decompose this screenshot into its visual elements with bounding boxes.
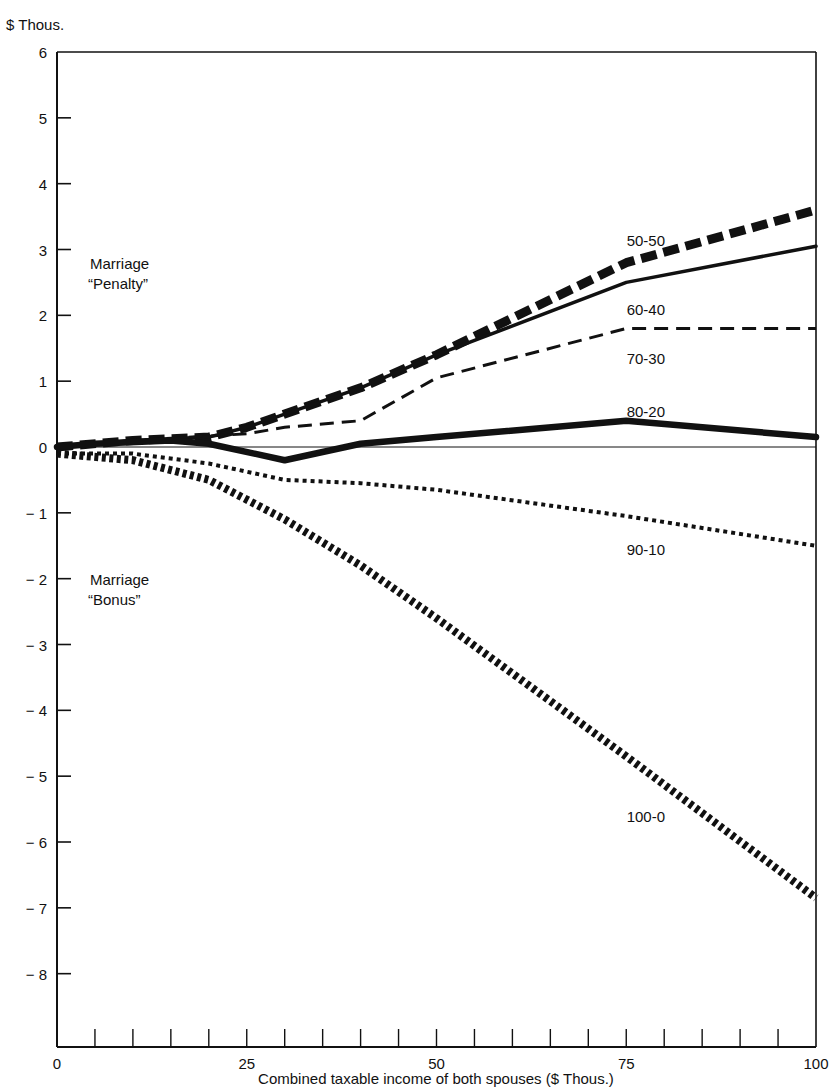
series-label-70-30: 70-30: [627, 350, 665, 367]
series-line-100-0: [57, 454, 816, 898]
series-label-80-20: 80-20: [627, 403, 665, 420]
series-label-60-40: 60-40: [627, 301, 665, 318]
y-axis-title: $ Thous.: [6, 16, 64, 33]
series-line-80-20: [57, 421, 816, 461]
y-tick-label: 1: [39, 373, 47, 390]
x-axis-title: Combined taxable income of both spouses …: [258, 1070, 614, 1087]
series-labels: 50-5060-4070-3080-2090-10100-0: [627, 232, 665, 825]
x-tick-label: 100: [803, 1055, 828, 1072]
annotation-line1: Marriage: [90, 571, 149, 588]
y-tick-label: 0: [39, 439, 47, 456]
y-tick-label: − 3: [26, 637, 47, 654]
x-tick-label: 25: [238, 1055, 255, 1072]
y-tick-label: 2: [39, 307, 47, 324]
y-tick-label: 4: [39, 176, 47, 193]
y-tick-label: − 2: [26, 571, 47, 588]
series-line-60-40: [57, 246, 816, 447]
marriage-penalty-chart: 6543210− 1− 2− 3− 4− 5− 6− 7− 8025507510…: [0, 0, 836, 1090]
axes: 6543210− 1− 2− 3− 4− 5− 6− 7− 8025507510…: [26, 44, 829, 1072]
annotation-line1: Marriage: [90, 255, 149, 272]
series-label-90-10: 90-10: [627, 541, 665, 558]
y-tick-label: − 4: [26, 702, 47, 719]
x-tick-label: 75: [618, 1055, 635, 1072]
x-tick-label: 0: [53, 1055, 61, 1072]
y-tick-label: 3: [39, 242, 47, 259]
y-tick-label: − 7: [26, 900, 47, 917]
y-tick-label: 6: [39, 44, 47, 61]
y-tick-label: − 5: [26, 768, 47, 785]
series-label-100-0: 100-0: [627, 808, 665, 825]
annotation-line2: “Penalty”: [88, 275, 148, 292]
series-label-50-50: 50-50: [627, 232, 665, 249]
y-tick-label: − 6: [26, 834, 47, 851]
annotation-line2: “Bonus”: [88, 591, 141, 608]
annotations: Marriage“Penalty”Marriage“Bonus”: [88, 255, 149, 608]
y-tick-label: 5: [39, 110, 47, 127]
series-lines: [57, 210, 816, 898]
y-tick-label: − 8: [26, 966, 47, 983]
y-tick-label: − 1: [26, 505, 47, 522]
